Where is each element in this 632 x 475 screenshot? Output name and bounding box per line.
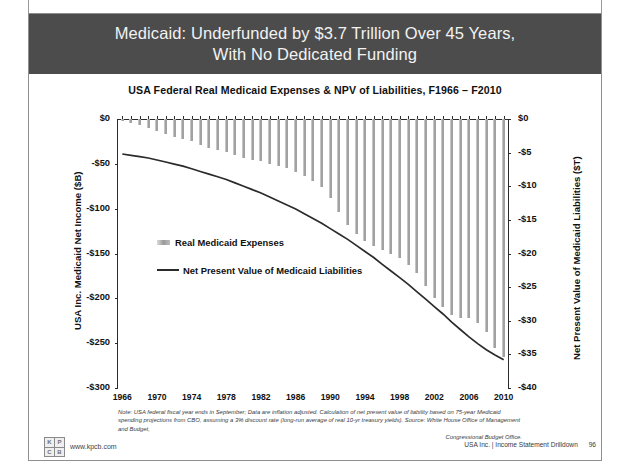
x-axis-minor-tick-1972 <box>174 116 175 119</box>
y-axis-left-tickmark-5 <box>115 343 118 344</box>
x-axis-minor-tick-1974 <box>192 116 193 119</box>
legend-item-bars: Real Medicaid Expenses <box>157 237 284 248</box>
npv-line-series <box>118 119 509 389</box>
chart-footnote: Note: USA federal fiscal year ends in Se… <box>118 408 522 442</box>
x-axis-minor-tick-1975 <box>200 116 201 119</box>
kpcb-url: www.kpcb.com <box>70 443 117 450</box>
x-axis-minor-tick-1999 <box>408 116 409 119</box>
x-axis-minor-tick-1971 <box>166 116 167 119</box>
y-axis-right-tick-1: -$5 <box>518 147 531 157</box>
y-axis-right-tickmark-0 <box>508 119 511 120</box>
y-axis-left-tick-5: -$250 <box>58 337 110 347</box>
y-axis-right-tick-8: -$40 <box>518 382 537 392</box>
y-axis-left-tick-6: -$300 <box>58 382 110 392</box>
y-axis-right-tick-7: -$35 <box>518 348 537 358</box>
y-axis-right-tickmark-6 <box>508 321 511 322</box>
x-axis-minor-tick-2004 <box>452 116 453 119</box>
x-axis-minor-tick-1990 <box>330 116 331 119</box>
slide-canvas: Medicaid: Underfunded by $3.7 Trillion O… <box>0 0 632 475</box>
x-axis-minor-tick-1991 <box>339 116 340 119</box>
x-axis-minor-tick-1996 <box>382 116 383 119</box>
logo-cell-b: B <box>54 447 65 458</box>
y-axis-left-tickmark-6 <box>115 388 118 389</box>
x-axis-minor-tick-1981 <box>252 116 253 119</box>
y-axis-right-tick-5: -$25 <box>518 281 537 291</box>
x-axis-minor-tick-1988 <box>313 116 314 119</box>
x-axis-minor-tick-1985 <box>287 116 288 119</box>
x-axis-minor-tick-1977 <box>218 116 219 119</box>
legend-bar-label: Real Medicaid Expenses <box>175 237 284 248</box>
x-axis-minor-tick-2008 <box>486 116 487 119</box>
x-axis-minor-tick-1993 <box>356 116 357 119</box>
x-axis-minor-tick-1980 <box>244 116 245 119</box>
y-axis-right-tick-3: -$15 <box>518 214 537 224</box>
y-axis-right-tickmark-8 <box>508 388 511 389</box>
x-axis-minor-tick-1967 <box>131 116 132 119</box>
x-axis-minor-tick-2006 <box>469 116 470 119</box>
x-axis-minor-tick-1987 <box>304 116 305 119</box>
x-axis-minor-tick-2007 <box>478 116 479 119</box>
x-axis-minor-tick-1979 <box>235 116 236 119</box>
y-axis-left-tick-2: -$100 <box>58 203 110 213</box>
x-axis-minor-tick-2000 <box>417 116 418 119</box>
y-axis-right-tickmark-7 <box>508 354 511 355</box>
footnote-line-2: projections from CBO, assuming a 3% disc… <box>118 417 520 431</box>
y-axis-right-tickmark-2 <box>508 186 511 187</box>
chart-title: USA Federal Real Medicaid Expenses & NPV… <box>29 84 601 96</box>
y-axis-left-tickmark-4 <box>115 298 118 299</box>
y-axis-left-tick-1: -$50 <box>58 158 110 168</box>
x-axis-minor-tick-1970 <box>157 116 158 119</box>
x-axis-minor-tick-1986 <box>296 116 297 119</box>
y-axis-left-title: USA Inc. Medicaid Net Income ($B) <box>72 171 83 330</box>
y-axis-right-title: Net Present Value of Medicaid Liabilitie… <box>571 156 582 360</box>
footnote-line-3: Congressional Budget Office. <box>118 433 522 441</box>
y-axis-left-tickmark-3 <box>115 254 118 255</box>
y-axis-right-tickmark-3 <box>508 220 511 221</box>
headline-line-1: Medicaid: Underfunded by $3.7 Trillion O… <box>115 24 516 42</box>
x-axis-tick-2010: 2010 <box>484 392 524 402</box>
x-axis-minor-tick-2005 <box>460 116 461 119</box>
y-axis-right-tick-4: -$20 <box>518 248 537 258</box>
x-axis-minor-tick-2009 <box>495 116 496 119</box>
y-axis-left-tickmark-2 <box>115 209 118 210</box>
x-axis-minor-tick-1998 <box>400 116 401 119</box>
legend-bar-swatch <box>157 240 170 245</box>
x-axis-minor-tick-1982 <box>261 116 262 119</box>
x-axis-minor-tick-1983 <box>270 116 271 119</box>
x-axis-minor-tick-1989 <box>322 116 323 119</box>
footer-deck-label: USA Inc. | Income Statement Drilldown <box>464 441 578 448</box>
x-axis-minor-tick-1966 <box>122 116 123 119</box>
x-axis-minor-tick-1976 <box>209 116 210 119</box>
y-axis-left-tickmark-1 <box>115 164 118 165</box>
page-top-frame <box>28 0 602 14</box>
x-axis-minor-tick-2003 <box>443 116 444 119</box>
x-axis-minor-tick-1973 <box>183 116 184 119</box>
x-axis-minor-tick-1995 <box>374 116 375 119</box>
x-axis-minor-tick-1968 <box>140 116 141 119</box>
slide-title-band: Medicaid: Underfunded by $3.7 Trillion O… <box>29 14 601 74</box>
y-axis-left-tick-0: $0 <box>58 113 110 123</box>
y-axis-right-tickmark-1 <box>508 153 511 154</box>
x-axis-minor-tick-1994 <box>365 116 366 119</box>
y-axis-right-tick-0: $0 <box>518 113 528 123</box>
y-axis-left-tick-3: -$150 <box>58 248 110 258</box>
headline-line-2: With No Dedicated Funding <box>213 45 417 63</box>
y-axis-right-tickmark-5 <box>508 287 511 288</box>
x-axis-minor-tick-2001 <box>426 116 427 119</box>
npv-line-path <box>122 154 503 360</box>
y-axis-right-tickmark-4 <box>508 254 511 255</box>
x-axis-minor-tick-1969 <box>148 116 149 119</box>
y-axis-right-tick-6: -$30 <box>518 315 537 325</box>
legend-item-line: Net Present Value of Medicaid Liabilitie… <box>157 265 362 276</box>
legend-line-label: Net Present Value of Medicaid Liabilitie… <box>183 265 362 276</box>
y-axis-left-tick-4: -$200 <box>58 292 110 302</box>
slide-page-number: 96 <box>589 441 596 448</box>
x-axis-minor-tick-1997 <box>391 116 392 119</box>
slide-footer-right: USA Inc. | Income Statement Drilldown 96 <box>464 441 596 448</box>
x-axis-minor-tick-2010 <box>504 116 505 119</box>
x-axis-minor-tick-1984 <box>278 116 279 119</box>
slide-headline: Medicaid: Underfunded by $3.7 Trillion O… <box>115 23 516 65</box>
kpcb-logo: K P C B <box>44 437 64 456</box>
legend-line-swatch <box>157 269 179 271</box>
x-axis-minor-tick-2002 <box>434 116 435 119</box>
